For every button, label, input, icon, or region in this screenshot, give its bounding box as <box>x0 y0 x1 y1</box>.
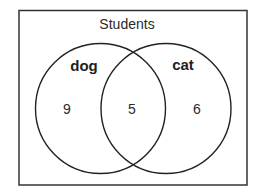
universe-label: Students <box>99 17 154 31</box>
set-label-cat: cat <box>172 57 194 72</box>
universe-box <box>19 11 247 186</box>
cat-only-count: 6 <box>193 102 201 116</box>
dog-only-count: 9 <box>63 102 71 116</box>
venn-diagram: Students dog cat 9 5 6 <box>0 0 260 195</box>
intersection-count: 5 <box>128 102 136 116</box>
set-label-dog: dog <box>70 58 98 73</box>
